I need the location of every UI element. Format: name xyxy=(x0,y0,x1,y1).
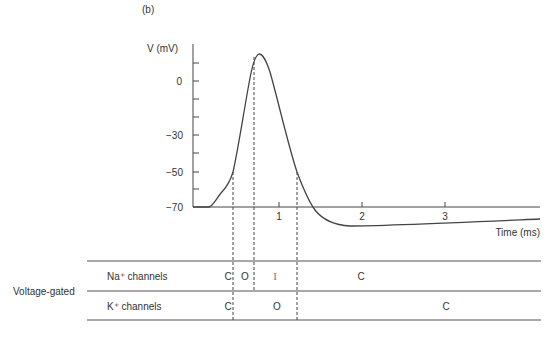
x-axis-label: Time (ms) xyxy=(495,227,540,238)
y-tick-minus70: −70 xyxy=(166,202,183,213)
y-axis-label: V (mV) xyxy=(147,43,178,54)
action-potential-figure: (b) V (mV) 0 −30 −50 −70 1 2 3 Time (ms) xyxy=(0,0,560,337)
y-axis-ticks xyxy=(193,63,199,189)
y-tick-minus30: −30 xyxy=(166,130,183,141)
na-state-closed-2: C xyxy=(357,271,364,282)
y-tick-0: 0 xyxy=(176,76,182,87)
k-state-closed-2: C xyxy=(442,301,449,312)
k-channels-label: K⁺ channels xyxy=(107,301,161,312)
k-state-closed-1: C xyxy=(224,301,231,312)
na-channels-label: Na⁺ channels xyxy=(107,271,168,282)
voltage-gated-label: Voltage-gated xyxy=(13,286,75,297)
x-tick-2: 2 xyxy=(359,211,365,222)
action-potential-curve xyxy=(193,54,540,226)
k-state-open: O xyxy=(273,301,281,312)
na-state-closed-1: C xyxy=(224,271,231,282)
y-tick-minus50: −50 xyxy=(166,167,183,178)
x-tick-3: 3 xyxy=(442,211,448,222)
na-state-open: O xyxy=(241,271,249,282)
x-tick-1: 1 xyxy=(276,211,282,222)
na-state-inactivated: I xyxy=(273,270,277,282)
panel-label: (b) xyxy=(142,4,154,15)
x-axis-ticks xyxy=(279,202,445,207)
